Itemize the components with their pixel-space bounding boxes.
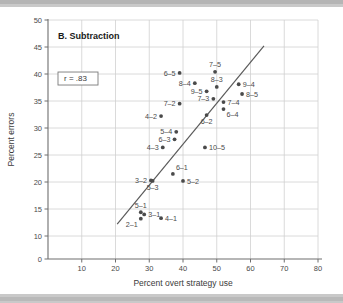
data-point[interactable] (215, 85, 219, 89)
data-point-label: 8–4 (179, 79, 191, 88)
data-point-label: 4–1 (165, 214, 177, 223)
x-tick-label: 50 (213, 264, 221, 273)
data-point[interactable] (181, 179, 185, 183)
data-point[interactable] (203, 146, 207, 150)
data-point[interactable] (173, 137, 177, 141)
data-point-label: 2–1 (126, 220, 138, 229)
data-point[interactable] (171, 172, 175, 176)
data-point[interactable] (139, 217, 143, 221)
data-point-label: 6–4 (227, 110, 239, 119)
data-point-label: 6–2 (201, 117, 213, 126)
data-point-label: 4–3 (147, 143, 159, 152)
data-point-label: 4–2 (145, 112, 157, 121)
correlation-label: r = .83 (64, 74, 87, 83)
data-point-label: 5–2 (187, 177, 199, 186)
data-point-label: 8–5 (246, 90, 258, 99)
y-tick-label: 40 (34, 70, 42, 79)
data-point-label: 10–5 (209, 143, 225, 152)
data-point[interactable] (193, 81, 197, 85)
data-point-label: 6–3 (159, 135, 171, 144)
y-tick-label: 15 (34, 205, 42, 214)
x-tick-label: 40 (179, 264, 187, 273)
window-top-border (0, 0, 343, 7)
data-point[interactable] (178, 71, 182, 75)
data-point-label: 7–5 (209, 60, 221, 69)
y-tick-label: 0 (38, 255, 42, 264)
data-point[interactable] (178, 102, 182, 106)
data-point[interactable] (205, 89, 209, 93)
chart-svg: 010152025303540455010203040506070806–57–… (0, 7, 343, 294)
x-tick-label: 60 (246, 264, 254, 273)
data-point[interactable] (222, 107, 226, 111)
data-point[interactable] (161, 146, 165, 150)
data-point-label: 3–1 (148, 210, 160, 219)
data-point[interactable] (159, 114, 163, 118)
data-point-label: 6–1 (176, 163, 188, 172)
y-tick-label: 10 (34, 232, 42, 241)
data-point[interactable] (211, 97, 215, 101)
data-point-label: 7–4 (228, 98, 240, 107)
data-point[interactable] (142, 213, 146, 217)
y-tick-label: 25 (34, 151, 42, 160)
data-point[interactable] (237, 82, 241, 86)
data-point-label: 7–3 (197, 94, 209, 103)
y-tick-label: 35 (34, 97, 42, 106)
data-point-label: 8–3 (211, 75, 223, 84)
regression-line (117, 46, 264, 224)
data-point-label: 6–5 (164, 69, 176, 78)
data-point[interactable] (213, 70, 217, 74)
panel-title: B. Subtraction (58, 31, 120, 41)
x-tick-label: 70 (280, 264, 288, 273)
data-point-label: 3–2 (135, 176, 147, 185)
x-axis-title: Percent overt strategy use (133, 278, 232, 288)
y-tick-label: 50 (34, 16, 42, 25)
data-point-label: 7–2 (164, 99, 176, 108)
y-tick-label: 45 (34, 43, 42, 52)
data-point[interactable] (174, 130, 178, 134)
x-tick-label: 20 (111, 264, 119, 273)
data-point[interactable] (139, 210, 143, 214)
window-bottom-border (0, 294, 343, 303)
data-point-label: 9–4 (243, 80, 255, 89)
x-tick-label: 10 (78, 264, 86, 273)
y-axis-title: Percent errors (6, 113, 16, 167)
scatter-chart-figure: 010152025303540455010203040506070806–57–… (0, 7, 343, 294)
y-tick-label: 30 (34, 124, 42, 133)
data-point[interactable] (240, 92, 244, 96)
data-point[interactable] (222, 100, 226, 104)
x-tick-label: 30 (145, 264, 153, 273)
data-point-label: 5–1 (135, 201, 147, 210)
data-point[interactable] (159, 216, 163, 220)
data-point-label: 5–3 (147, 183, 159, 192)
y-tick-label: 20 (34, 178, 42, 187)
x-tick-label: 80 (314, 264, 322, 273)
